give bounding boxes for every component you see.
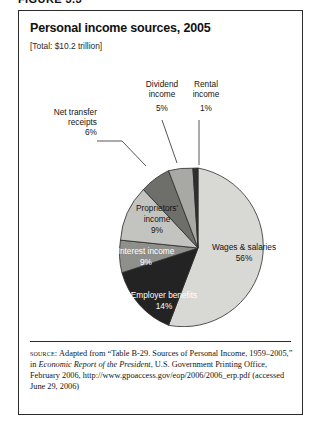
source-divider — [30, 341, 291, 342]
pie-label-interest-income: Interest income — [118, 246, 175, 256]
pie-label-wages-and-salaries-value: 56% — [236, 253, 253, 263]
pie-label-proprietors-income-line2: income — [144, 214, 171, 224]
leader-lines — [97, 120, 199, 166]
pie-label-net-transfer-receipts-line2: receipts — [68, 117, 97, 127]
pie-label-net-transfer-receipts-line1: Net transfer — [54, 107, 98, 117]
pie-label-dividend-income-line1: Dividend — [146, 79, 179, 89]
pie-label-rental-income-line1: Rental — [194, 79, 218, 89]
pie-label-wages-and-salaries: Wages & salaries — [212, 242, 276, 252]
pie-chart: Net transfer receipts 6% Dividend income… — [19, 55, 302, 327]
pie-label-employer-benefits-value: 14% — [156, 301, 173, 311]
source-note: source: Adapted from “Table B-29. Source… — [30, 348, 296, 392]
pie-label-proprietors-income-line1: Proprietors' — [136, 203, 179, 213]
source-publication-title: Economic Report of the President — [39, 360, 151, 369]
pie-label-dividend-income-line2: income — [149, 89, 176, 99]
chart-subtitle-total: [Total: $10.2 trillion] — [30, 41, 102, 51]
pie-label-rental-income-value: 1% — [200, 103, 213, 113]
pie-label-net-transfer-receipts-value: 6% — [85, 127, 98, 137]
leader-line-dividend-income — [162, 120, 177, 163]
pie-label-proprietors-income-value: 9% — [151, 225, 164, 235]
leader-line-net-transfer-receipts — [97, 141, 146, 166]
figure-frame: Personal income sources, 2005 [Total: $1… — [18, 10, 303, 415]
pie-label-employer-benefits: Employer benefits — [131, 290, 197, 300]
source-kicker: source: — [30, 348, 57, 358]
pie-label-interest-income-value: 9% — [140, 257, 153, 267]
pie-chart-svg: Net transfer receipts 6% Dividend income… — [19, 55, 302, 327]
figure-number-label: FIGURE 3.3 — [18, 0, 82, 5]
figure-page: FIGURE 3.3 Personal income sources, 2005… — [0, 0, 321, 426]
chart-title: Personal income sources, 2005 — [30, 21, 210, 35]
pie-label-dividend-income-value: 5% — [156, 103, 169, 113]
pie-label-rental-income-line2: income — [193, 89, 220, 99]
